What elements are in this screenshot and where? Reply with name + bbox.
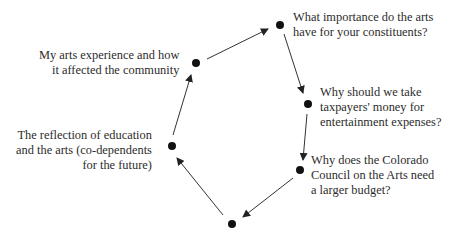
node-right-lower-dot [296, 166, 304, 174]
node-upper-left-dot [192, 59, 200, 67]
label-top: What importance do the arts have for you… [293, 10, 433, 40]
arrow-rightupper-to-rightlower [303, 114, 307, 160]
arrow-upperleft-to-top [207, 29, 268, 59]
node-left-dot [168, 142, 176, 150]
label-right-upper: Why should we take taxpayers' money for … [320, 85, 441, 130]
label-right-lower: Why does the Colorado Council on the Art… [311, 153, 434, 198]
arrow-rightlower-to-bottom [243, 178, 293, 217]
node-right-upper-dot [304, 100, 312, 108]
node-top-dot [276, 21, 284, 29]
arrow-bottom-to-left [177, 158, 223, 215]
arrow-top-to-rightupper [284, 34, 303, 93]
node-bottom-dot [228, 220, 236, 228]
label-left: The reflection of education and the arts… [16, 128, 152, 173]
arrow-left-to-upperleft [173, 75, 191, 135]
label-upper-left: My arts experience and how it affected t… [39, 48, 179, 78]
